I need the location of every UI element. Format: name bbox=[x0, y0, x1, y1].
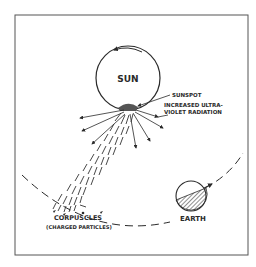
corpuscles-label: CORPUSCLES bbox=[54, 214, 102, 222]
uv-pointer bbox=[158, 115, 168, 117]
corpuscle-stream bbox=[53, 113, 133, 212]
charged-particles-label: (CHARGED PARTICLES) bbox=[46, 224, 112, 230]
uv-label-line2: VIOLET RADIATION bbox=[164, 109, 222, 115]
sun-earth-diagram: SUN SUNSPOT INCREASED ULTRA- VIOLET RADI… bbox=[0, 0, 256, 267]
earth-orbit-right bbox=[205, 153, 243, 188]
sunspot-label: SUNSPOT bbox=[172, 92, 202, 98]
earth-label: EARTH bbox=[180, 215, 206, 223]
sun-label: SUN bbox=[117, 74, 138, 84]
uv-label-line1: INCREASED ULTRA- bbox=[164, 102, 223, 108]
uv-radiation-arrows bbox=[80, 110, 163, 148]
